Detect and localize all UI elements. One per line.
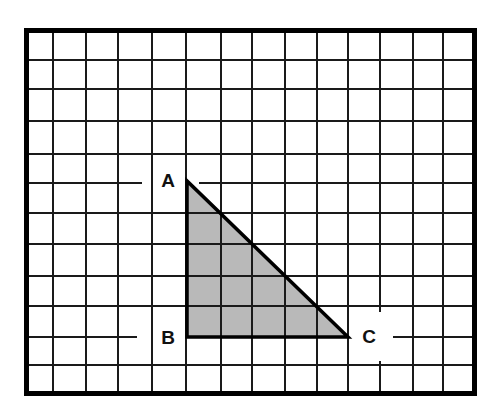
vertex-label-c: C — [362, 326, 376, 347]
vertex-label-b: B — [161, 327, 175, 348]
grid-triangle-diagram: A B C — [0, 0, 486, 401]
vertex-label-a: A — [161, 170, 175, 191]
grid-lines — [27, 31, 475, 394]
